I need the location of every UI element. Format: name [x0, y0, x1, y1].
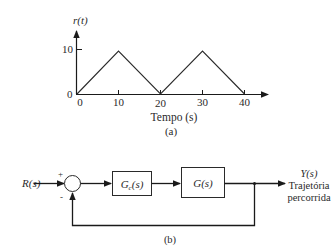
y-tick-label-10: 10 — [62, 43, 74, 55]
output-desc-line2: percorrida — [287, 192, 330, 203]
y-axis-label: r(t) — [73, 14, 88, 27]
caption-b: (b) — [164, 234, 177, 246]
x-tick-label-10: 10 — [113, 96, 125, 108]
x-tick-label-40: 40 — [239, 96, 251, 108]
output-desc-line1: Trajetória — [288, 180, 329, 191]
output-label: Y(s) — [301, 168, 318, 180]
y-tick-label-0: 0 — [67, 88, 73, 100]
plot-a: r(t) 10 0 0 10 20 30 40 Tempo (s) (a) — [62, 14, 268, 138]
controller-label: Gc(s) — [121, 178, 144, 192]
block-diagram-b: R(s) + - Gc(s) G(s) Y(s) Trajetória perc… — [21, 168, 331, 246]
x-tick-label-30: 30 — [197, 96, 209, 108]
feedback-path — [73, 184, 255, 226]
x-tick-label-0: 0 — [77, 96, 83, 108]
plant-label: G(s) — [193, 177, 213, 190]
triangle-wave-line — [77, 51, 245, 94]
figure-canvas: r(t) 10 0 0 10 20 30 40 Tempo (s) (a) R(… — [0, 0, 336, 246]
x-axis-label: Tempo (s) — [151, 111, 198, 124]
sum-minus-sign: - — [60, 192, 63, 202]
caption-a: (a) — [165, 125, 178, 138]
sum-plus-sign: + — [58, 169, 63, 179]
summing-junction — [65, 176, 81, 192]
x-tick-label-20: 20 — [155, 97, 167, 109]
